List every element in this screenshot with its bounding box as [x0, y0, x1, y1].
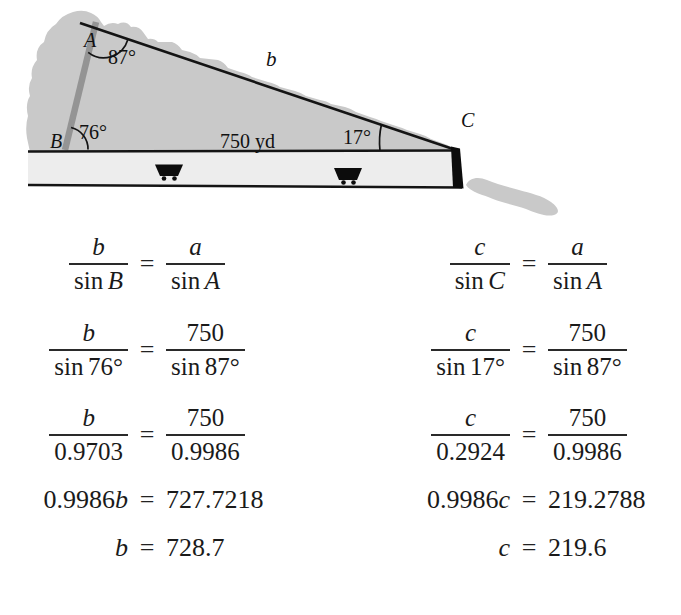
base-length-label: 750 yd [220, 130, 275, 153]
fraction-750-over-sin87: 750 sin87° [166, 319, 245, 381]
equals-sign: = [510, 533, 548, 563]
equals-sign: = [128, 420, 166, 450]
fraction-b-over-sin76: b sin76° [49, 319, 128, 381]
vertex-b-label: B [50, 130, 62, 152]
fraction-a-over-sinA: a sinA [166, 233, 225, 295]
eq-left-row5: b = 728.7 [33, 533, 306, 563]
eq-left-row2: b sin76° = 750 sin87° [33, 319, 306, 381]
eq-left-row4: 0.9986b = 727.7218 [33, 485, 306, 515]
rhs-value: 219.2788 [548, 485, 646, 515]
lhs-expression: 0.9986c [427, 485, 510, 515]
vertex-a-label: A [82, 29, 97, 51]
tunnel-strip [28, 150, 462, 187]
fraction-c-over-sinC: c sinC [450, 233, 510, 295]
angle-b-label: 76° [79, 121, 107, 143]
eq-right-row5: c = 219.6 [415, 533, 681, 563]
fraction-c-over-sin17: c sin17° [431, 319, 510, 381]
side-b-label: b [266, 47, 277, 71]
eq-right-row2: c sin17° = 750 sin87° [415, 319, 681, 381]
rhs-value: 728.7 [166, 533, 225, 563]
lhs-variable: b [115, 533, 128, 563]
fraction-a-over-sinA: a sinA [548, 233, 607, 295]
fraction-750-over-0.9986: 750 0.9986 [166, 404, 245, 466]
rhs-value: 727.7218 [166, 485, 264, 515]
mine-hill-diagram: A 87° B 76° b 750 yd 17° C [0, 0, 681, 232]
diagram-svg: A 87° B 76° b 750 yd 17° C [0, 0, 681, 228]
fraction-b-over-0.9703: b 0.9703 [49, 404, 128, 466]
eq-left-row3: b 0.9703 = 750 0.9986 [33, 404, 306, 466]
rhs-value: 219.6 [548, 533, 607, 563]
eq-left-row1: b sinB = a sinA [33, 233, 306, 295]
angle-a-label: 87° [108, 46, 136, 68]
eq-right-row1: c sinC = a sinA [415, 233, 681, 295]
fraction-b-over-sinB: b sinB [69, 233, 128, 295]
equals-sign: = [128, 485, 166, 515]
ground-blob [466, 178, 558, 216]
equals-sign: = [128, 335, 166, 365]
equals-sign: = [510, 485, 548, 515]
angle-c-label: 17° [343, 126, 371, 148]
tunnel-end-wall [451, 147, 464, 189]
equals-sign: = [128, 249, 166, 279]
equals-sign: = [128, 533, 166, 563]
lhs-expression: 0.9986b [44, 485, 129, 515]
fraction-750-over-0.9986: 750 0.9986 [548, 404, 627, 466]
vertex-c-label: C [461, 109, 475, 131]
textbook-page: { "diagram": { "vertex_a": "A", "vertex_… [0, 0, 681, 615]
equals-sign: = [510, 249, 548, 279]
fraction-c-over-0.2924: c 0.2924 [431, 404, 510, 466]
lhs-variable: c [498, 533, 510, 563]
eq-right-row4: 0.9986c = 219.2788 [415, 485, 681, 515]
equals-sign: = [510, 335, 548, 365]
equals-sign: = [510, 420, 548, 450]
fraction-750-over-sin87: 750 sin87° [548, 319, 627, 381]
eq-right-row3: c 0.2924 = 750 0.9986 [415, 404, 681, 466]
